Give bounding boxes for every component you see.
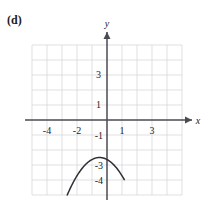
- x-tick-label: -2: [73, 125, 81, 136]
- x-axis-arrow-icon: [185, 117, 192, 124]
- x-tick-label: 1: [120, 125, 125, 136]
- x-tick-label: 3: [150, 125, 155, 136]
- y-tick-label: -3: [95, 160, 103, 171]
- x-axis-label: x: [195, 115, 201, 126]
- graph-figure: x y -4 -2 1 3 3 1 -1 -3 -4: [0, 0, 211, 210]
- y-tick-label: -4: [95, 175, 103, 186]
- y-tick-label: 3: [96, 69, 101, 80]
- y-tick-label: 1: [96, 99, 101, 110]
- y-tick-label: -1: [95, 130, 103, 141]
- x-tick-label: -4: [43, 125, 51, 136]
- y-axis-label: y: [104, 18, 110, 29]
- y-axis-arrow-icon: [104, 32, 111, 39]
